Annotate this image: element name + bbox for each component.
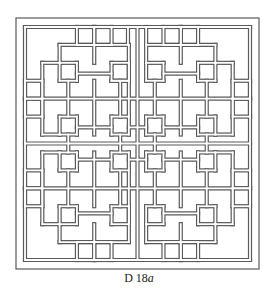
caption-suffix: a (148, 271, 154, 285)
lattice-figure: D 18a (0, 0, 278, 291)
lattice-pattern (0, 0, 278, 291)
figure-caption: D 18a (0, 271, 278, 286)
caption-label: D 18 (124, 271, 148, 285)
lattice-bars (25, 27, 250, 260)
